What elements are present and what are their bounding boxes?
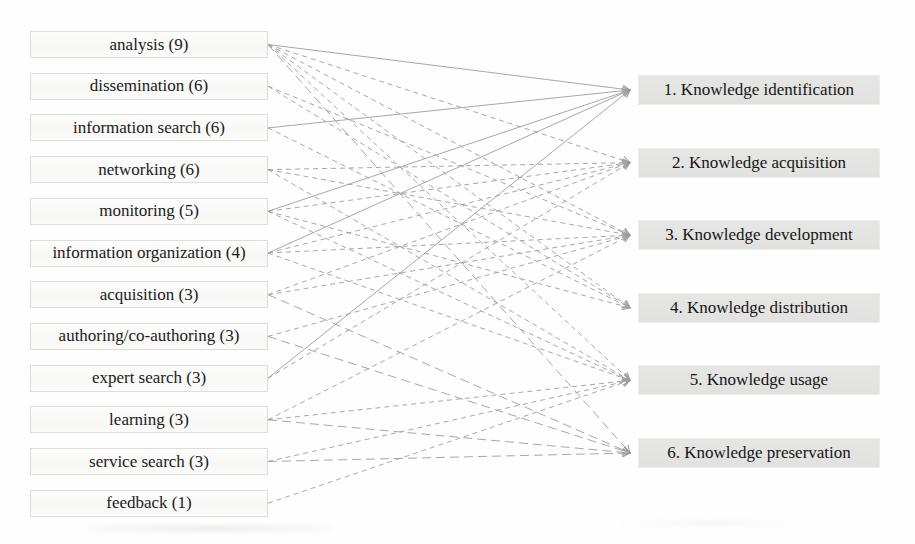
activity-label: service search (3): [89, 452, 209, 472]
activity-label: authoring/co-authoring (3): [59, 326, 240, 346]
process-label: 3. Knowledge development: [665, 225, 852, 245]
connector-analysis-to-knowledge-acquisition: [268, 45, 630, 163]
connector-service-search-to-knowledge-preservation: [268, 453, 630, 462]
activity-box-expert-search: expert search (3): [30, 365, 268, 392]
connector-expert-search-to-knowledge-acquisition: [268, 163, 630, 379]
process-label: 5. Knowledge usage: [690, 370, 828, 390]
process-box-knowledge-preservation: 6. Knowledge preservation: [638, 438, 880, 468]
connector-expert-search-to-knowledge-identification: [268, 90, 630, 378]
process-label: 6. Knowledge preservation: [667, 443, 851, 463]
activity-box-acquisition: acquisition (3): [30, 281, 268, 308]
connector-monitoring-to-knowledge-distribution: [268, 211, 630, 307]
scan-artifact: [88, 523, 333, 534]
connector-learning-to-knowledge-preservation: [268, 420, 630, 453]
activity-label: dissemination (6): [90, 76, 209, 96]
connector-information-search-to-knowledge-distribution: [268, 128, 630, 308]
activity-label: monitoring (5): [99, 201, 199, 221]
figure-canvas: analysis (9)dissemination (6)information…: [0, 0, 915, 544]
process-box-knowledge-development: 3. Knowledge development: [638, 220, 880, 250]
activity-label: information search (6): [73, 118, 225, 138]
connector-information-organization-to-knowledge-acquisition: [268, 163, 630, 253]
connector-learning-to-knowledge-usage: [268, 380, 630, 419]
activity-box-dissemination: dissemination (6): [30, 73, 268, 100]
connector-service-search-to-knowledge-usage: [268, 380, 630, 461]
connector-feedback-to-knowledge-usage: [268, 380, 630, 503]
process-box-knowledge-acquisition: 2. Knowledge acquisition: [638, 148, 880, 178]
activity-box-authoring-co-authoring: authoring/co-authoring (3): [30, 323, 268, 350]
activity-label: information organization (4): [52, 243, 245, 263]
process-label: 4. Knowledge distribution: [670, 298, 848, 318]
connector-networking-to-knowledge-acquisition: [268, 163, 630, 170]
scan-artifact: [620, 519, 800, 527]
activity-box-monitoring: monitoring (5): [30, 198, 268, 225]
connector-authoring-co-authoring-to-knowledge-preservation: [268, 336, 630, 453]
connector-monitoring-to-knowledge-usage: [268, 211, 630, 380]
connector-analysis-to-knowledge-identification: [268, 45, 630, 91]
activity-box-service-search: service search (3): [30, 448, 268, 475]
process-box-knowledge-identification: 1. Knowledge identification: [638, 75, 880, 105]
connector-acquisition-to-knowledge-preservation: [268, 295, 630, 453]
activity-box-information-organization: information organization (4): [30, 240, 268, 267]
process-label: 2. Knowledge acquisition: [672, 153, 846, 173]
activity-box-learning: learning (3): [30, 406, 268, 433]
connector-monitoring-to-knowledge-acquisition: [268, 163, 630, 212]
process-box-knowledge-usage: 5. Knowledge usage: [638, 365, 880, 395]
activity-label: expert search (3): [92, 368, 206, 388]
connector-information-organization-to-knowledge-usage: [268, 253, 630, 380]
activity-label: networking (6): [98, 160, 200, 180]
connector-analysis-to-knowledge-usage: [268, 45, 630, 381]
process-label: 1. Knowledge identification: [664, 80, 854, 100]
activity-label: analysis (9): [110, 35, 189, 55]
process-box-knowledge-distribution: 4. Knowledge distribution: [638, 293, 880, 323]
activity-label: feedback (1): [106, 493, 191, 513]
activity-box-information-search: information search (6): [30, 114, 268, 141]
activity-box-networking: networking (6): [30, 156, 268, 183]
connector-analysis-to-knowledge-preservation: [268, 45, 630, 454]
activity-label: learning (3): [109, 410, 189, 430]
activity-box-feedback: feedback (1): [30, 490, 268, 517]
activity-label: acquisition (3): [100, 285, 199, 305]
connector-analysis-to-knowledge-development: [268, 45, 630, 236]
activity-box-analysis: analysis (9): [30, 31, 268, 58]
